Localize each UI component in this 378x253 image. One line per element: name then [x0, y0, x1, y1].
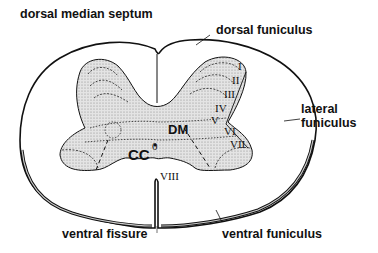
label-ventral-funiculus: ventral funiculus [222, 227, 322, 241]
label-cc: CC [128, 146, 150, 163]
spinal-cord-cross-section-diagram: dorsal median septum dorsal funiculus la… [0, 0, 378, 253]
label-dorsal-funiculus: dorsal funiculus [216, 23, 313, 37]
label-ventral-fissure: ventral fissure [62, 227, 148, 241]
lamina-label-1: I [238, 60, 242, 72]
lamina-label-6: VI [224, 125, 236, 137]
label-dorsal-median-septum: dorsal median septum [20, 7, 153, 21]
lamina-label-4: IV [215, 102, 227, 114]
label-lateral-funiculus-line2: funiculus [301, 116, 357, 130]
lamina-label-5: V [211, 114, 219, 126]
lamina-label-2: II [232, 74, 240, 86]
lamina-label-3: III [224, 88, 235, 100]
label-dm: DM [168, 122, 188, 137]
label-cc-superscript: 0 [152, 140, 158, 152]
lamina-label-8: VIII [160, 170, 179, 182]
label-lateral-funiculus-line1: lateral [301, 102, 338, 116]
lamina-label-7: VII [230, 138, 246, 150]
